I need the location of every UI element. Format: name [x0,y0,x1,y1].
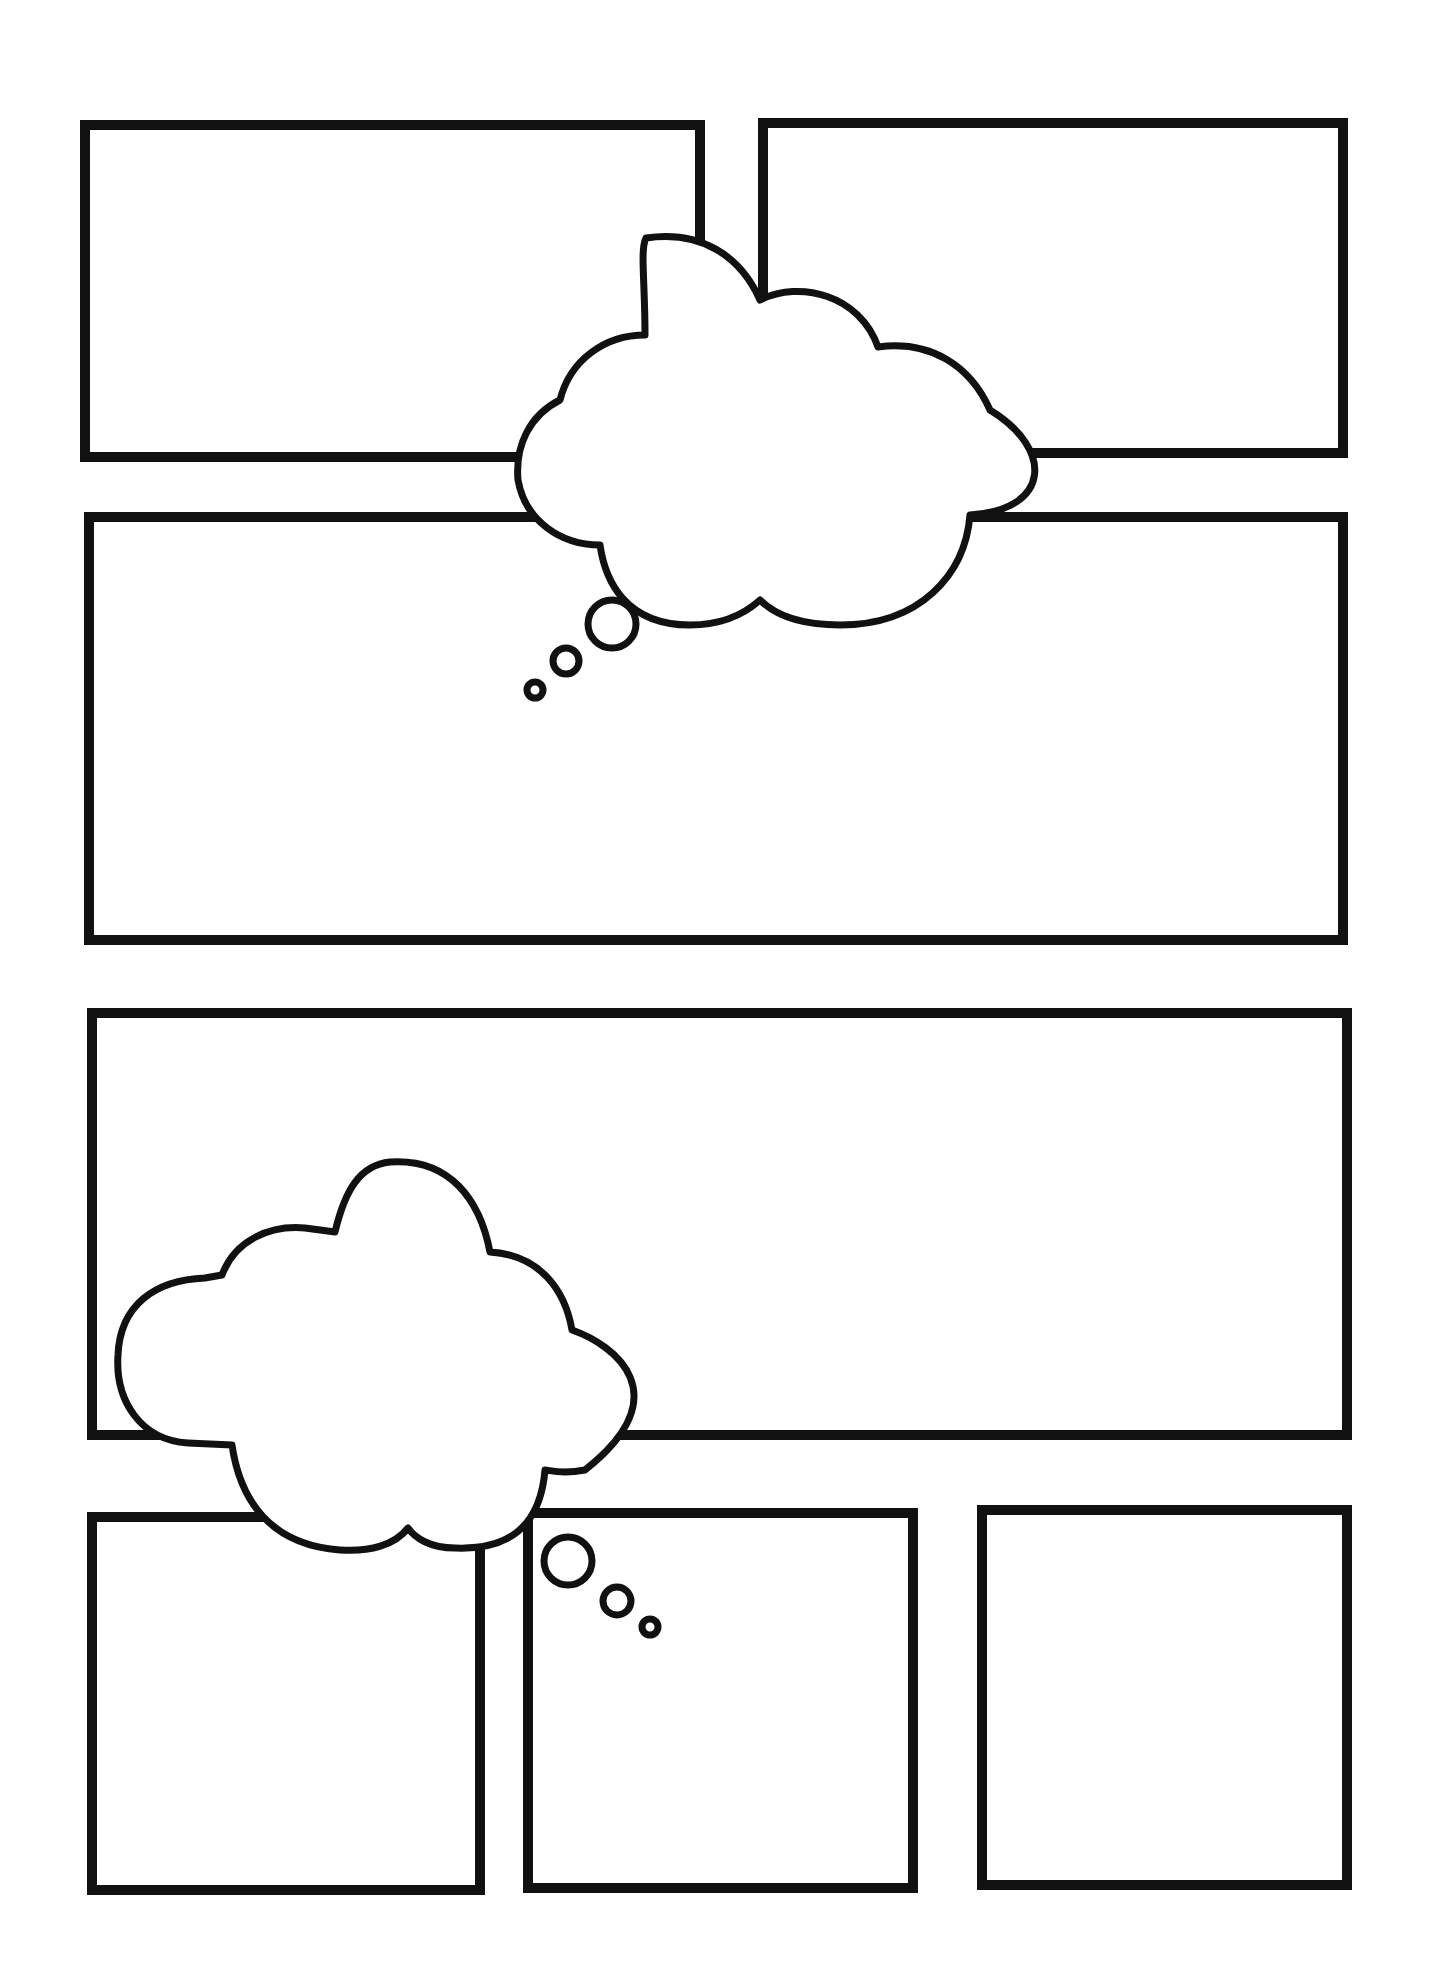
tail-bubble-large [544,1537,592,1585]
panel-5 [92,1517,480,1890]
tail-bubble-small [642,1619,658,1635]
panel-7 [982,1510,1347,1885]
tail-bubble-medium [553,648,579,674]
tail-bubble-large [588,600,636,648]
comic-page [0,0,1435,1980]
tail-bubble-small [527,682,543,698]
tail-bubble-medium [603,1587,631,1615]
